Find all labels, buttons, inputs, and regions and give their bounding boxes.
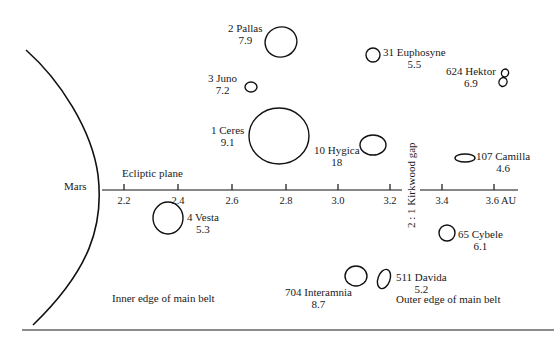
asteroid-name: 1 Ceres bbox=[211, 124, 244, 136]
asteroid-name: 31 Euphosyne bbox=[383, 46, 446, 58]
inner-edge-label: Inner edge of main belt bbox=[112, 292, 215, 304]
tick-label: 2.2 bbox=[117, 195, 130, 206]
mars-label: Mars bbox=[64, 180, 87, 192]
tick-label: 3.2 bbox=[383, 195, 396, 206]
mars-limb bbox=[26, 50, 99, 325]
asteroid-label-interamnia: 704 Interamnia 8.7 bbox=[285, 286, 352, 310]
asteroid-label-camilla: 107 Camilla 4.6 bbox=[476, 150, 530, 174]
asteroid-value: 9.1 bbox=[211, 136, 244, 148]
euphosyne-shape bbox=[366, 48, 380, 62]
asteroid-name: 624 Hektor bbox=[446, 65, 496, 77]
ecliptic-axis bbox=[102, 184, 518, 190]
asteroid-label-hygica: 10 Hygica 18 bbox=[314, 144, 360, 168]
asteroid-value: 5.2 bbox=[396, 283, 447, 295]
asteroid-value: 4.6 bbox=[476, 162, 530, 174]
hektor-shape-top bbox=[500, 68, 509, 78]
interamnia-shape bbox=[345, 266, 367, 286]
cybele-shape bbox=[439, 225, 455, 241]
asteroid-name: 511 Davida bbox=[396, 271, 447, 283]
asteroid-value: 8.7 bbox=[285, 298, 352, 310]
asteroid-label-euphosyne: 31 Euphosyne 5.5 bbox=[383, 46, 446, 70]
kirkwood-gap-label: 2 : 1 Kirkwood gap bbox=[405, 142, 417, 228]
tick-label: 2.4 bbox=[171, 195, 184, 206]
asteroid-label-hektor: 624 Hektor 6.9 bbox=[446, 65, 496, 89]
asteroid-label-pallas: 2 Pallas 7.9 bbox=[228, 22, 263, 46]
asteroid-name: 4 Vesta bbox=[187, 211, 219, 223]
asteroid-value: 6.9 bbox=[446, 77, 496, 89]
asteroid-value: 5.5 bbox=[383, 58, 446, 70]
asteroid-belt-diagram bbox=[0, 0, 554, 343]
tick-label: 3.6 AU bbox=[486, 195, 516, 206]
asteroid-value: 7.9 bbox=[228, 34, 263, 46]
ceres-shape bbox=[249, 108, 309, 164]
tick-label: 3.0 bbox=[331, 195, 344, 206]
asteroid-label-juno: 3 Juno 7.2 bbox=[208, 72, 237, 96]
asteroid-label-vesta: 4 Vesta 5.3 bbox=[187, 211, 219, 235]
asteroid-value: 5.3 bbox=[187, 223, 219, 235]
ecliptic-plane-label: Ecliptic plane bbox=[122, 167, 183, 179]
asteroid-name: 10 Hygica bbox=[314, 144, 360, 156]
asteroid-name: 704 Interamnia bbox=[285, 286, 352, 298]
asteroid-value: 6.1 bbox=[458, 240, 503, 252]
tick-label: 3.4 bbox=[435, 195, 448, 206]
hygica-shape bbox=[360, 135, 386, 155]
tick-label: 2.8 bbox=[279, 195, 292, 206]
pallas-shape bbox=[261, 22, 301, 61]
camilla-shape bbox=[455, 154, 475, 162]
asteroid-name: 2 Pallas bbox=[228, 22, 263, 34]
hektor-shape-bottom bbox=[498, 76, 509, 87]
tick-label: 2.6 bbox=[225, 195, 238, 206]
asteroid-label-ceres: 1 Ceres 9.1 bbox=[211, 124, 244, 148]
asteroid-name: 107 Camilla bbox=[476, 150, 530, 162]
asteroid-label-davida: 511 Davida 5.2 bbox=[396, 271, 447, 295]
asteroid-name: 65 Cybele bbox=[458, 228, 503, 240]
asteroid-name: 3 Juno bbox=[208, 72, 237, 84]
davida-shape bbox=[375, 268, 393, 291]
asteroid-value: 18 bbox=[314, 156, 360, 168]
vesta-shape bbox=[153, 202, 183, 234]
asteroid-value: 7.2 bbox=[208, 84, 237, 96]
asteroid-label-cybele: 65 Cybele 6.1 bbox=[458, 228, 503, 252]
juno-shape bbox=[245, 82, 257, 92]
